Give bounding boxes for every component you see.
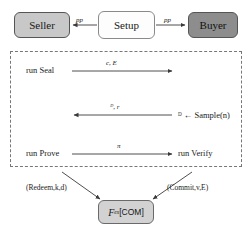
run-verify-label: run Verify [178, 149, 213, 158]
setup-label: Setup [114, 20, 139, 31]
protocol-diagram: Seller Setup Buyer pp pp run Seal c, E ᴰ… [0, 0, 251, 232]
arrow-redeem-call [62, 172, 100, 199]
proof-message-label: π [117, 143, 121, 150]
run-seal-label: run Seal [26, 66, 54, 75]
ideal-functionality-box[interactable]: Fex[COM] [98, 200, 154, 224]
buyer-label: Buyer [200, 20, 227, 31]
redeem-call-label: (Redeem,k,d) [26, 184, 67, 192]
seller-box[interactable]: Seller [14, 12, 70, 38]
buyer-box[interactable]: Buyer [188, 12, 238, 38]
sample-assignment-label: ᴰ ← Sample(n) [178, 111, 230, 120]
seal-message-label: c, E [106, 60, 117, 67]
run-prove-label: run Prove [26, 149, 59, 158]
setup-box[interactable]: Setup [98, 11, 155, 39]
seller-label: Seller [29, 20, 55, 31]
pp-label-buyer: pp [164, 17, 171, 24]
pp-label-seller: pp [76, 17, 83, 24]
commit-call-label: (Commit,v,E) [167, 184, 208, 192]
functionality-bracket-label: [COM] [119, 207, 144, 217]
sample-message-label: ᴰ, r [110, 104, 120, 111]
